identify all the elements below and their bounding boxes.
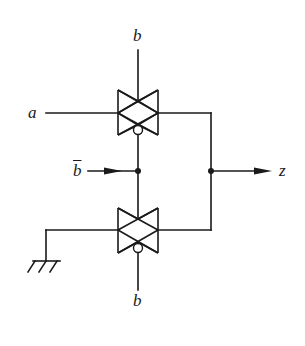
label-b-bar: b	[73, 162, 82, 179]
label-output-z: z	[279, 162, 286, 179]
junction-dot-icon	[135, 168, 141, 174]
inversion-bubble-icon	[134, 244, 143, 253]
circuit-schematic	[0, 0, 305, 346]
inversion-bubble-icon	[134, 126, 143, 135]
ground-icon	[28, 261, 60, 272]
label-b-bottom: b	[133, 292, 142, 309]
label-b-top: b	[133, 27, 142, 44]
junction-dot-icon	[208, 168, 214, 174]
transmission-gate-diagram: b a b z b	[0, 0, 305, 346]
arrow-right-icon	[104, 168, 122, 175]
arrow-right-icon	[254, 168, 272, 175]
label-input-a: a	[28, 104, 37, 121]
